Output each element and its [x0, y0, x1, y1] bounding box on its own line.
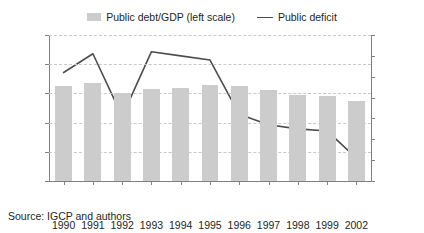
chart-legend: Public debt/GDP (left scale) Public defi…: [0, 7, 424, 27]
y-axis-left-tick: [45, 64, 49, 65]
gridline: [49, 64, 371, 65]
y-axis-right-tick: [371, 160, 375, 161]
y-axis-right-line: [371, 35, 372, 181]
plot-area: 0%20%40%60%80%100%0%1%2%3%4%5%6%7%199019…: [49, 35, 371, 181]
legend-label-public-debt: Public debt/GDP (left scale): [106, 12, 235, 23]
bar-1997: [260, 90, 277, 181]
x-axis-tick: [239, 181, 240, 185]
x-axis-label-2002: 2002(est.): [335, 219, 377, 233]
y-axis-right-tick: [371, 139, 375, 140]
chart-figure: Public debt/GDP (left scale) Public defi…: [0, 0, 424, 233]
x-axis-tick: [151, 181, 152, 185]
y-axis-right-tick: [371, 98, 375, 99]
bar-1994: [172, 88, 189, 181]
bar-1996: [231, 86, 248, 181]
legend-item-public-debt: Public debt/GDP (left scale): [87, 12, 235, 23]
y-axis-left-tick: [45, 93, 49, 94]
y-axis-left-tick: [45, 35, 49, 36]
bar-1998: [289, 95, 306, 181]
legend-item-public-deficit: Public deficit: [257, 12, 337, 23]
bar-1990: [55, 86, 72, 181]
bar-1991: [84, 83, 101, 181]
y-axis-right-tick: [371, 181, 375, 182]
x-axis-tick: [181, 181, 182, 185]
source-note: Source: IGCP and authors: [8, 211, 131, 222]
x-axis-tick: [122, 181, 123, 185]
y-axis-left-tick: [45, 123, 49, 124]
y-axis-right-tick: [371, 35, 375, 36]
y-axis-left-tick: [45, 181, 49, 182]
bar-1993: [143, 89, 160, 181]
x-axis-tick: [210, 181, 211, 185]
x-axis-tick: [93, 181, 94, 185]
x-axis-tick: [64, 181, 65, 185]
y-axis-right-tick: [371, 56, 375, 57]
bar-2002: [348, 101, 365, 181]
y-axis-left-tick: [45, 152, 49, 153]
bar-swatch-icon: [87, 13, 101, 21]
x-axis-label-note: (est.): [335, 232, 377, 233]
x-axis-tick: [298, 181, 299, 185]
gridline: [49, 35, 371, 36]
y-axis-right-tick: [371, 77, 375, 78]
legend-label-public-deficit: Public deficit: [278, 12, 337, 23]
y-axis-right-tick: [371, 118, 375, 119]
line-swatch-icon: [257, 17, 273, 18]
bar-1992: [114, 93, 131, 181]
x-axis-tick: [356, 181, 357, 185]
x-axis-tick: [269, 181, 270, 185]
bar-1999: [319, 96, 336, 181]
x-axis-tick: [327, 181, 328, 185]
bar-1995: [202, 85, 219, 181]
